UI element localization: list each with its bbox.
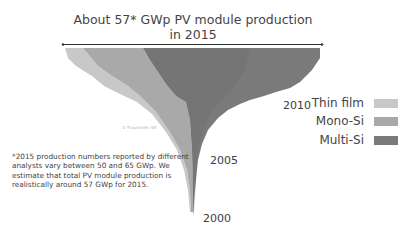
year-label-2005: 2005 (210, 154, 238, 167)
legend-item-thin-film: Thin film (300, 96, 398, 108)
legend-item-mono-si: Mono-Si (300, 114, 398, 126)
legend-label-multi-si: Multi-Si (319, 133, 364, 147)
width-indicator-right-dot (321, 43, 324, 46)
legend-swatch-thin-film (374, 99, 398, 108)
watermark: © Fraunhofer ISE (122, 125, 156, 130)
year-label-2000: 2000 (203, 212, 231, 225)
legend-item-multi-si: Multi-Si (300, 133, 398, 145)
legend-swatch-mono-si (374, 117, 398, 126)
width-indicator-left-dot (62, 43, 65, 46)
legend-swatch-multi-si (374, 136, 398, 145)
footnote: *2015 production numbers reported by dif… (12, 152, 192, 189)
legend-label-thin-film: Thin film (312, 96, 364, 110)
legend-label-mono-si: Mono-Si (316, 114, 364, 128)
